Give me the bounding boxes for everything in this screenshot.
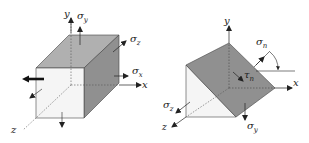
wedge-z-axis-label: z [161, 122, 167, 132]
cube-front-face [36, 68, 84, 118]
wedge-z-axis [172, 117, 186, 127]
wedge-sigma-z-label: σz [163, 99, 174, 113]
wedge-sigma-y-label: σy [247, 120, 259, 134]
sigma-n-arrow [256, 57, 264, 65]
y-axis-label: y [63, 8, 70, 19]
sigma-z-label: σz [130, 33, 141, 47]
sigma-x-label: σx [132, 65, 143, 79]
x-axis-label: x [142, 79, 148, 90]
wedge-x-axis-label: x [293, 77, 299, 88]
stress-diagram: y x z σy σz σx y [0, 0, 309, 143]
wedge-y-axis-label: y [223, 15, 230, 26]
z-axis [23, 118, 36, 130]
sigma-y-label: σy [77, 10, 89, 24]
sigma-n-label: σn [256, 36, 268, 50]
z-axis-label: z [10, 124, 17, 135]
stress-wedge: y x z σz σy σn τn [161, 15, 299, 134]
stress-cube: y x z σy σz σx [10, 8, 148, 135]
